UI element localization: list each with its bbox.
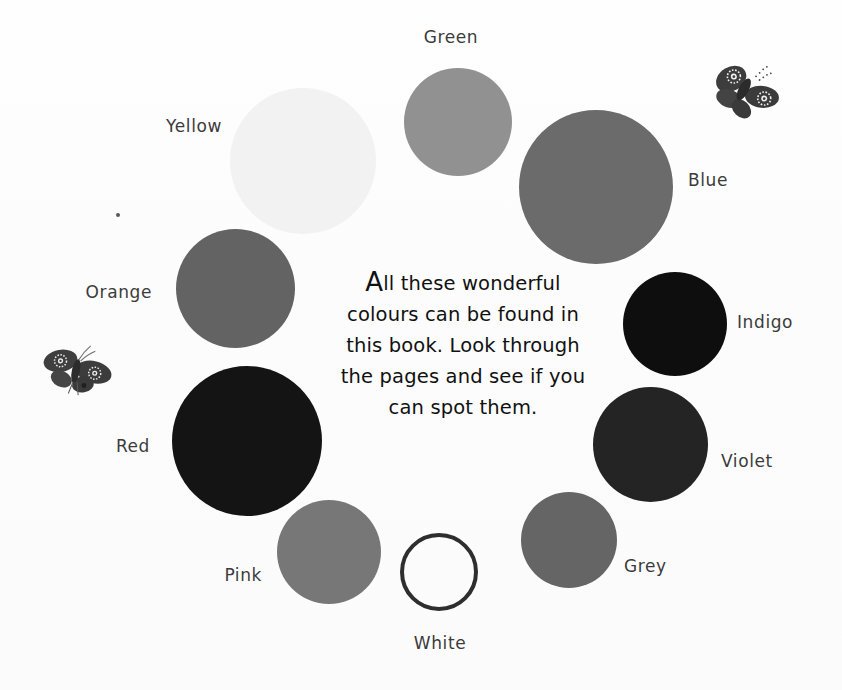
swatch-label-yellow: Yellow — [166, 118, 222, 135]
swatch-indigo[interactable] — [623, 272, 727, 376]
swatch-pink[interactable] — [277, 500, 381, 604]
swatch-violet[interactable] — [593, 387, 708, 502]
swatch-label-pink: Pink — [224, 567, 262, 584]
butterfly-top-right-icon — [708, 56, 784, 130]
swatch-blue[interactable] — [519, 110, 673, 264]
swatch-red[interactable] — [172, 366, 322, 516]
swatch-yellow[interactable] — [230, 88, 376, 234]
swatch-white[interactable] — [400, 533, 478, 611]
swatch-label-grey: Grey — [624, 558, 667, 575]
swatch-orange[interactable] — [176, 229, 295, 348]
drop-cap: A — [365, 267, 383, 297]
swatch-label-blue: Blue — [688, 172, 728, 189]
colours-page: GreenYellowBlueOrangeIndigoRedVioletPink… — [0, 0, 842, 690]
swatch-label-white: White — [414, 635, 466, 652]
intro-paragraph: All these wonderful colours can be found… — [330, 268, 596, 423]
swatch-label-orange: Orange — [86, 284, 152, 301]
swatch-label-green: Green — [424, 29, 478, 46]
swatch-label-indigo: Indigo — [737, 314, 793, 331]
swatch-green[interactable] — [404, 68, 512, 176]
butterfly-left-icon — [36, 338, 118, 404]
swatch-grey[interactable] — [521, 492, 617, 588]
swatch-label-violet: Violet — [721, 453, 773, 470]
swatch-label-red: Red — [116, 438, 150, 455]
ink-speck — [116, 213, 120, 217]
